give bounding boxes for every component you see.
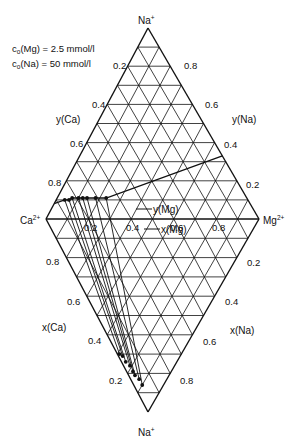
- data-point: [67, 198, 71, 202]
- data-point: [131, 370, 135, 374]
- vertex-right-mg: Mg2+: [263, 212, 284, 226]
- tick-ll-2: 0.4: [88, 335, 101, 346]
- tick-ul-3: 0.8: [48, 177, 61, 188]
- tick-ul-0: 0.2: [113, 60, 126, 71]
- data-point: [63, 198, 67, 202]
- axis-label-y-ca: y(Ca): [56, 114, 80, 125]
- tick-lr-3: 0.8: [180, 375, 193, 386]
- axis-label-y-mg: y(Mg): [153, 204, 179, 215]
- vertex-bottom-na: Na+: [138, 424, 155, 438]
- data-point: [85, 196, 89, 200]
- tick-ur-2: 0.4: [224, 139, 237, 150]
- condition-na: co(Na) = 50 mmol/l: [12, 58, 95, 73]
- data-point: [81, 196, 85, 200]
- tick-ul-2: 0.6: [70, 138, 83, 149]
- axis-label-x-na: x(Na): [230, 325, 254, 336]
- data-point: [77, 196, 81, 200]
- tick-ur-3: 0.2: [246, 179, 259, 190]
- tick-mid-1: 0.4: [126, 222, 139, 233]
- vertex-left-ca: Ca2+: [20, 212, 40, 226]
- tick-lr-2: 0.6: [203, 336, 216, 347]
- tick-lr-0: 0.2: [247, 257, 260, 268]
- conditions-text: co(Mg) = 2.5 mmol/l co(Na) = 50 mmol/l: [12, 43, 95, 73]
- tick-ll-3: 0.2: [109, 375, 122, 386]
- axis-label-y-na: y(Na): [232, 114, 256, 125]
- data-point: [104, 196, 108, 200]
- tick-ur-0: 0.8: [184, 60, 197, 71]
- tick-ur-1: 0.6: [205, 99, 218, 110]
- data-point: [133, 373, 137, 377]
- data-point: [94, 196, 98, 200]
- data-point: [128, 364, 132, 368]
- data-point: [70, 196, 74, 200]
- vertex-top-na: Na+: [138, 12, 155, 26]
- tick-ll-0: 0.8: [46, 256, 59, 267]
- data-point: [124, 360, 128, 364]
- data-point: [137, 377, 141, 381]
- tick-lr-1: 0.4: [225, 296, 238, 307]
- data-point: [121, 354, 125, 358]
- data-point: [118, 352, 122, 356]
- axis-label-x-ca: x(Ca): [42, 322, 66, 333]
- tick-ul-1: 0.4: [92, 99, 105, 110]
- tick-ll-1: 0.6: [67, 296, 80, 307]
- tick-mid-0: 0.2: [84, 222, 97, 233]
- data-point: [140, 383, 144, 387]
- tick-mid-3: 0.8: [212, 222, 225, 233]
- tick-mid-2: 0.6: [170, 222, 183, 233]
- condition-mg: co(Mg) = 2.5 mmol/l: [12, 43, 95, 58]
